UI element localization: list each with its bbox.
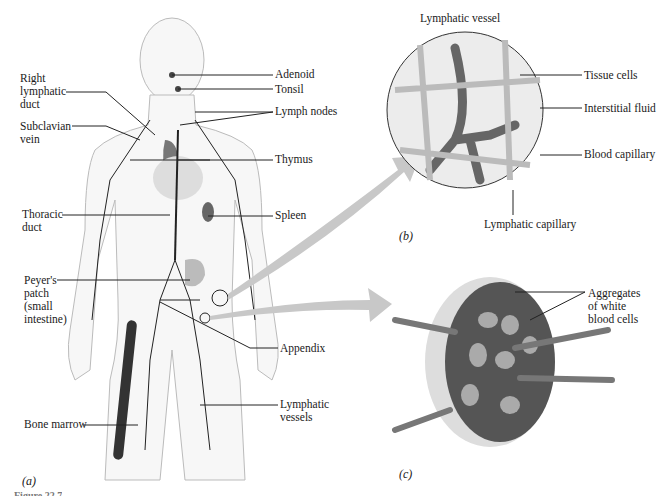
panel-label-b: (b): [399, 229, 413, 244]
label-appendix: Appendix: [280, 342, 325, 355]
panel-label-c: (c): [399, 467, 412, 482]
human-body-outline: [68, 18, 278, 480]
label-lymphatic-capillary: Lymphatic capillary: [484, 218, 576, 231]
label-lymph-nodes: Lymph nodes: [275, 105, 337, 118]
label-lymphatic-vessels: Lymphatic vessels: [280, 398, 329, 424]
label-thymus: Thymus: [275, 153, 313, 166]
label-adenoid: Adenoid: [275, 68, 315, 81]
panel-b-title: Lymphatic vessel: [420, 12, 500, 25]
label-bone-marrow: Bone marrow: [24, 418, 87, 431]
label-tissue-cells: Tissue cells: [584, 69, 638, 82]
label-thoracic-duct: Thoracic duct: [22, 208, 63, 234]
diagram-artwork: [0, 0, 672, 496]
label-right-lymphatic-duct: Right lymphatic duct: [20, 72, 66, 111]
label-tonsil: Tonsil: [275, 83, 304, 96]
spleen-organ: [202, 202, 214, 222]
lymph-node-cross-section: [395, 277, 612, 447]
figure-caption: Figure 22.7: [14, 489, 62, 496]
label-interstitial-fluid: Interstitial fluid: [584, 102, 656, 115]
capillary-bed-circle: [387, 32, 543, 188]
label-peyers-patch: Peyer's patch (small intestine): [24, 274, 67, 326]
label-blood-capillary: Blood capillary: [584, 148, 655, 161]
label-spleen: Spleen: [275, 209, 306, 222]
label-subclavian-vein: Subclavian vein: [20, 120, 71, 146]
panel-label-a: (a): [22, 474, 36, 489]
label-aggregates-white-blood-cells: Aggregates of white blood cells: [588, 287, 640, 326]
